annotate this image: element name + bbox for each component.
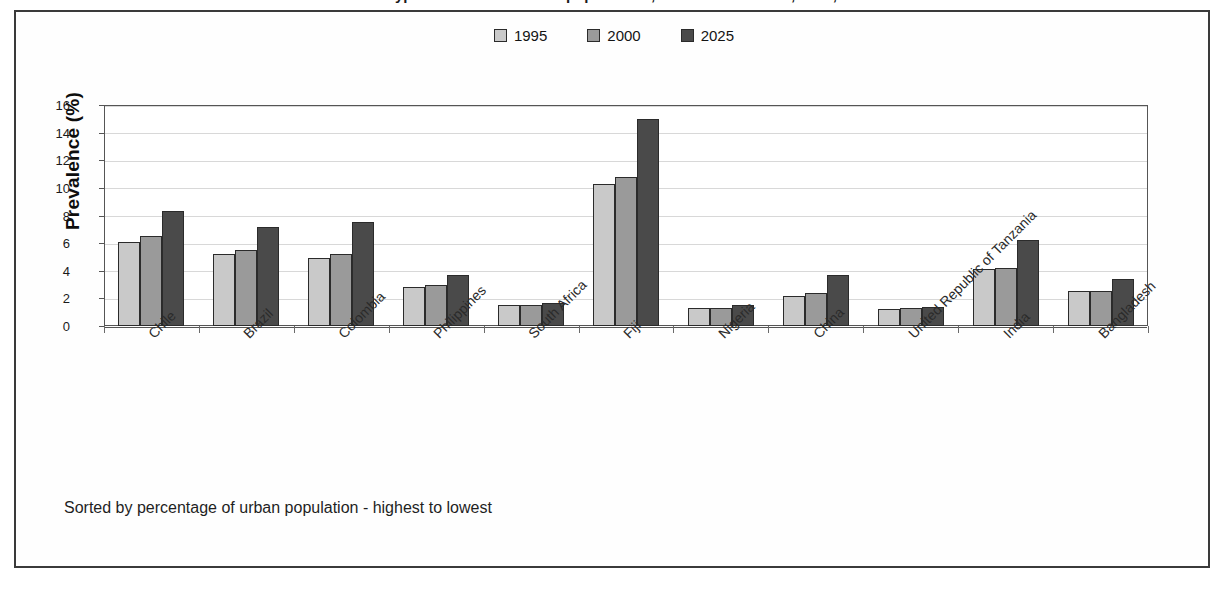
bar <box>615 177 637 326</box>
y-tick-mark-10 <box>99 188 104 189</box>
chart-legend: 1995 2000 2025 <box>16 28 1212 43</box>
bar <box>688 308 710 326</box>
legend-label-2000: 2000 <box>607 28 640 43</box>
y-tick-label-2: 2 <box>30 291 70 306</box>
legend-item-1995: 1995 <box>494 28 547 43</box>
y-tick-label-6: 6 <box>30 236 70 251</box>
y-tick-mark-16 <box>99 105 104 106</box>
bar-group <box>199 105 294 326</box>
bar <box>403 287 425 326</box>
bar <box>140 236 162 326</box>
bar <box>593 184 615 326</box>
bar <box>118 242 140 326</box>
y-tick-label-12: 12 <box>30 153 70 168</box>
y-tick-mark-2 <box>99 298 104 299</box>
page-title: Prevalence of Type 2 diabetes in urban p… <box>0 0 1228 3</box>
chart-footnote: Sorted by percentage of urban population… <box>64 499 492 517</box>
legend-swatch-1995 <box>494 29 507 42</box>
legend-label-2025: 2025 <box>701 28 734 43</box>
y-tick-mark-6 <box>99 243 104 244</box>
y-tick-label-10: 10 <box>30 180 70 195</box>
figure-frame: 1995 2000 2025 Prevalence (%) ChileBrazi… <box>14 10 1210 568</box>
bar <box>213 254 235 326</box>
legend-item-2025: 2025 <box>681 28 734 43</box>
y-tick-mark-4 <box>99 271 104 272</box>
bar <box>498 305 520 326</box>
bar <box>1068 291 1090 326</box>
bar-group <box>104 105 199 326</box>
y-tick-label-16: 16 <box>30 98 70 113</box>
bar <box>783 296 805 326</box>
bar <box>308 258 330 326</box>
bar-group <box>768 105 863 326</box>
legend-label-1995: 1995 <box>514 28 547 43</box>
y-tick-mark-14 <box>99 133 104 134</box>
bar-series-container <box>104 105 1148 326</box>
bar-group <box>579 105 674 326</box>
category-tick <box>1148 326 1149 333</box>
bar-group <box>673 105 768 326</box>
y-tick-mark-12 <box>99 160 104 161</box>
y-tick-label-0: 0 <box>30 319 70 334</box>
y-tick-label-8: 8 <box>30 208 70 223</box>
y-tick-label-14: 14 <box>30 125 70 140</box>
bar <box>878 309 900 326</box>
category-axis-labels: ChileBrazilColombiaPhilippinesSouth Afri… <box>104 330 1148 460</box>
bar <box>637 119 659 326</box>
legend-swatch-2025 <box>681 29 694 42</box>
bar-group <box>958 105 1053 326</box>
legend-swatch-2000 <box>587 29 600 42</box>
y-tick-mark-8 <box>99 216 104 217</box>
y-tick-label-4: 4 <box>30 263 70 278</box>
cropped-title-strip: Prevalence of Type 2 diabetes in urban p… <box>0 0 1228 9</box>
legend-item-2000: 2000 <box>587 28 640 43</box>
y-tick-mark-0 <box>99 326 104 327</box>
